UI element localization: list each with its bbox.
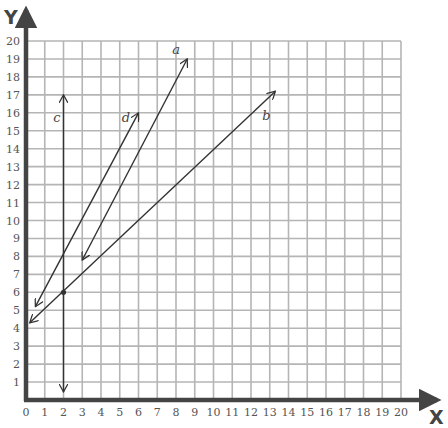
- y-tick-label: 11: [6, 197, 20, 210]
- y-tick-label: 10: [6, 215, 20, 228]
- x-tick-label: 12: [244, 406, 258, 419]
- line-label-c: c: [53, 110, 61, 125]
- x-axis-label: X: [429, 406, 444, 428]
- x-tick-label: 2: [60, 406, 67, 419]
- x-tick-label: 20: [394, 406, 408, 419]
- x-tick-label: 17: [338, 406, 352, 419]
- y-tick-label: 4: [13, 322, 20, 335]
- x-tick-label: 3: [79, 406, 86, 419]
- y-axis-label: Y: [3, 6, 18, 28]
- line-d: [35, 113, 138, 307]
- x-tick-label: 19: [375, 406, 389, 419]
- x-tick-label: 16: [319, 406, 333, 419]
- grid: [26, 41, 401, 400]
- x-tick-label: 5: [116, 406, 123, 419]
- y-tick-label: 2: [13, 358, 20, 371]
- coordinate-plane: 0123456789101112131415161718192012345678…: [0, 0, 448, 428]
- x-tick-label: 11: [225, 406, 239, 419]
- y-tick-label: 8: [13, 250, 20, 263]
- y-tick-label: 3: [13, 340, 20, 353]
- x-tick-label: 10: [207, 406, 221, 419]
- x-tick-label: 9: [191, 406, 198, 419]
- y-tick-label: 9: [13, 232, 20, 245]
- y-tick-label: 19: [6, 53, 20, 66]
- tick-labels: 0123456789101112131415161718192012345678…: [6, 35, 408, 419]
- line-label-d: d: [122, 110, 130, 125]
- x-tick-label: 6: [135, 406, 142, 419]
- x-tick-label: 18: [357, 406, 371, 419]
- x-tick-label: 15: [300, 406, 314, 419]
- x-tick-label: 4: [98, 406, 105, 419]
- y-tick-label: 1: [13, 376, 20, 389]
- y-tick-label: 5: [13, 304, 20, 317]
- x-tick-label: 8: [173, 406, 180, 419]
- x-tick-label: 14: [282, 406, 296, 419]
- line-label-a: a: [172, 42, 180, 57]
- axes: [24, 10, 437, 401]
- y-tick-label: 20: [6, 35, 20, 48]
- x-tick-label: 7: [154, 406, 161, 419]
- y-tick-label: 6: [13, 286, 20, 299]
- y-tick-label: 17: [6, 89, 20, 102]
- line-label-b: b: [262, 108, 270, 123]
- x-tick-label: 0: [23, 406, 30, 419]
- line-a: [82, 59, 187, 260]
- y-tick-label: 7: [13, 268, 20, 281]
- y-tick-label: 12: [6, 179, 20, 192]
- y-tick-label: 13: [6, 161, 20, 174]
- x-tick-label: 13: [263, 406, 277, 419]
- x-tick-label: 1: [41, 406, 48, 419]
- y-tick-label: 18: [6, 71, 20, 84]
- y-tick-label: 15: [6, 125, 20, 138]
- intersection-point: [61, 290, 66, 295]
- y-tick-label: 16: [6, 107, 20, 120]
- y-tick-label: 14: [6, 143, 20, 156]
